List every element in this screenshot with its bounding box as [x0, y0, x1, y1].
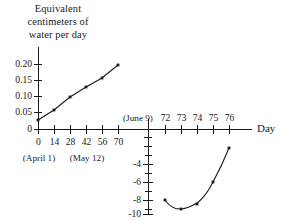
y-axis-label-minus-10: -10: [112, 209, 141, 219]
plot-area: [0, 0, 284, 221]
y-axis-label-minus-4: -4: [112, 159, 141, 169]
data-point-day-42: [85, 86, 88, 89]
y-axis-label-0: 0: [0, 124, 32, 134]
left-panel-series: [37, 64, 120, 122]
y-axis-label-0-20: 0.20: [0, 59, 32, 69]
ablation-rate-line: [38, 65, 118, 120]
right-panel-series: [164, 147, 231, 211]
data-point-day-75: [212, 181, 215, 184]
x-axis-label-76: 76: [219, 113, 240, 123]
data-point-day-73: [180, 208, 183, 211]
negative-branch-markers: [164, 147, 231, 211]
x-axis-label-70: 70: [108, 137, 129, 147]
data-point-day-0: [37, 119, 40, 122]
y-axis-label-minus-8: -8: [112, 195, 141, 205]
y-axis-label-minus-6: -6: [112, 177, 141, 187]
x-axis-title-day: Day: [257, 123, 275, 133]
figure-container: Equivalent centimeters of water per day: [0, 0, 284, 221]
data-point-day-76: [228, 147, 231, 150]
annotation-may-12: (May 12): [60, 153, 114, 163]
data-point-day-14: [53, 109, 56, 112]
negative-branch-curve: [165, 148, 229, 209]
data-point-day-28: [69, 96, 72, 99]
annotation-april-1: (April 1): [12, 153, 66, 163]
data-point-day-70: [117, 64, 120, 67]
y-axis-label-0-10: 0.10: [0, 91, 32, 101]
data-point-day-74: [196, 203, 199, 206]
data-point-day-72: [164, 199, 167, 202]
y-axis-label-0-05: 0.05: [0, 107, 32, 117]
y-axis-label-0-15: 0.15: [0, 75, 32, 85]
data-point-day-56: [101, 77, 104, 80]
